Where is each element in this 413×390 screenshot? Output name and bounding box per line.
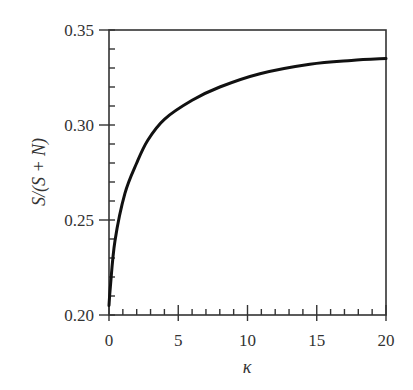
x-tick-label: 15 (308, 331, 325, 350)
x-axis-label: κ (243, 357, 252, 377)
x-tick-label: 5 (174, 331, 183, 350)
y-tick-label: 0.30 (64, 116, 94, 135)
chart: 05101520 0.200.250.300.35 κ S/(S + N) (0, 0, 413, 390)
y-tick-label: 0.20 (64, 306, 94, 325)
y-axis-label: S/(S + N) (29, 138, 50, 206)
x-tick-labels: 05101520 (105, 331, 395, 350)
axis-ticks (99, 30, 386, 321)
x-tick-label: 0 (105, 331, 114, 350)
y-tick-labels: 0.200.250.300.35 (64, 21, 94, 325)
x-tick-label: 10 (239, 331, 256, 350)
x-tick-label: 20 (378, 331, 395, 350)
y-tick-label: 0.35 (64, 21, 94, 40)
data-curve (109, 59, 386, 306)
y-tick-label: 0.25 (64, 211, 94, 230)
plot-frame (109, 30, 386, 315)
